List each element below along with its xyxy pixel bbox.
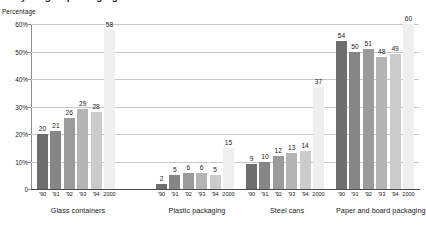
bar[interactable] xyxy=(336,41,347,190)
x-tick-label: '91 xyxy=(169,191,180,197)
x-tick-label: '91 xyxy=(259,191,270,197)
bar[interactable] xyxy=(246,164,257,189)
bar[interactable] xyxy=(104,30,115,190)
bar-item[interactable]: 2 xyxy=(156,24,167,189)
x-tick-label: '93 xyxy=(286,191,297,197)
bar[interactable] xyxy=(37,134,48,189)
bar-item[interactable]: 49 xyxy=(390,24,401,189)
bar-group: '90'91'92'93'9420002566515Plastic packag… xyxy=(156,24,238,189)
bar-item[interactable]: 60 xyxy=(403,24,414,189)
bar[interactable] xyxy=(349,52,360,190)
bar[interactable] xyxy=(363,49,374,189)
bar[interactable] xyxy=(183,173,194,190)
bar-item[interactable]: 29 xyxy=(77,24,88,189)
bar-value-label: 5 xyxy=(213,166,217,174)
bar-item[interactable]: 26 xyxy=(64,24,75,189)
bar-item[interactable]: 54 xyxy=(336,24,347,189)
bar-value-label: 10 xyxy=(261,153,268,161)
bar-value-label: 20 xyxy=(39,125,46,133)
bar[interactable] xyxy=(273,156,284,189)
y-axis-label: Percentage xyxy=(2,8,36,15)
bar-item[interactable]: 13 xyxy=(286,24,297,189)
y-tick-label: 40% xyxy=(15,76,28,83)
x-tick-label: 2000 xyxy=(101,191,119,197)
bar-value-label: 14 xyxy=(301,142,308,150)
bar-item[interactable]: 15 xyxy=(223,24,234,189)
bar[interactable] xyxy=(286,153,297,189)
bar-item[interactable]: 50 xyxy=(349,24,360,189)
bar-item[interactable]: 12 xyxy=(273,24,284,189)
bar-value-label: 5 xyxy=(173,166,177,174)
bar-group-label: Steel cans xyxy=(246,206,328,215)
y-tick-label: 50% xyxy=(15,48,28,55)
bar[interactable] xyxy=(64,118,75,190)
x-tick-label: '92 xyxy=(363,191,374,197)
bar[interactable] xyxy=(300,151,311,190)
bar[interactable] xyxy=(91,112,102,189)
bar-group-label: Glass containers xyxy=(37,206,119,215)
bar-value-label: 15 xyxy=(225,139,232,147)
bar-item[interactable]: 6 xyxy=(183,24,194,189)
bar-group: '90'91'92'93'942000545051484960Paper and… xyxy=(336,24,418,189)
bar-value-label: 29 xyxy=(79,100,86,108)
bar-value-label: 6 xyxy=(200,164,204,172)
bar-item[interactable]: 14 xyxy=(300,24,311,189)
bar-group: '90'91'92'93'94200091012131437Steel cans xyxy=(246,24,328,189)
chart-title-text: Recycling of packaging waste xyxy=(0,0,422,2)
bar-value-label: 26 xyxy=(66,109,73,117)
bar-item[interactable]: 48 xyxy=(376,24,387,189)
y-tick-label: 10% xyxy=(15,158,28,165)
x-tick-label: '90 xyxy=(156,191,167,197)
bar[interactable] xyxy=(390,54,401,189)
bar-item[interactable]: 21 xyxy=(50,24,61,189)
bar-item[interactable]: 58 xyxy=(104,24,115,189)
x-tick-label: '91 xyxy=(349,191,360,197)
bar-item[interactable]: 20 xyxy=(37,24,48,189)
bar[interactable] xyxy=(50,131,61,189)
bar-group: '90'91'92'93'942000202126292858Glass con… xyxy=(37,24,119,189)
bar-value-label: 60 xyxy=(405,15,412,23)
bar-item[interactable]: 10 xyxy=(259,24,270,189)
bar[interactable] xyxy=(169,175,180,189)
x-tick-label: '92 xyxy=(64,191,75,197)
bar-group-label: Paper and board packaging xyxy=(336,206,418,215)
bar[interactable] xyxy=(77,109,88,189)
bar[interactable] xyxy=(376,57,387,189)
bar-item[interactable]: 6 xyxy=(196,24,207,189)
bar-item[interactable]: 28 xyxy=(91,24,102,189)
bar[interactable] xyxy=(403,24,414,189)
y-tick-label: 20% xyxy=(15,131,28,138)
x-tick-label: '92 xyxy=(273,191,284,197)
bar-item[interactable]: 5 xyxy=(169,24,180,189)
bar-value-label: 12 xyxy=(275,147,282,155)
x-tick-label: 2000 xyxy=(310,191,328,197)
x-tick-label: '93 xyxy=(196,191,207,197)
bar-item[interactable]: 51 xyxy=(363,24,374,189)
bar-item[interactable]: 37 xyxy=(313,24,324,189)
bar-value-label: 54 xyxy=(338,32,345,40)
bar[interactable] xyxy=(210,175,221,189)
bar-value-label: 48 xyxy=(378,48,385,56)
x-tick-label: '93 xyxy=(376,191,387,197)
x-tick-label: '90 xyxy=(246,191,257,197)
bar-group-label: Plastic packaging xyxy=(156,206,238,215)
bar-value-label: 58 xyxy=(106,21,113,29)
bar-value-label: 2 xyxy=(160,175,164,183)
plot-area: '90'91'92'93'942000202126292858Glass con… xyxy=(31,24,419,189)
bar-value-label: 37 xyxy=(315,78,322,86)
bar[interactable] xyxy=(313,87,324,189)
bar-item[interactable]: 9 xyxy=(246,24,257,189)
bar[interactable] xyxy=(223,148,234,189)
bar-group-bars: 545051484960 xyxy=(336,24,418,189)
bar[interactable] xyxy=(196,173,207,190)
x-tick-label: '90 xyxy=(336,191,347,197)
bar-item[interactable]: 5 xyxy=(210,24,221,189)
x-tick-label: 2000 xyxy=(400,191,418,197)
bar[interactable] xyxy=(259,162,270,190)
y-tick-label: 60% xyxy=(15,21,28,28)
bar-value-label: 13 xyxy=(288,144,295,152)
x-axis-line xyxy=(31,189,420,190)
x-tick-label: '93 xyxy=(77,191,88,197)
x-tick-label: '91 xyxy=(50,191,61,197)
